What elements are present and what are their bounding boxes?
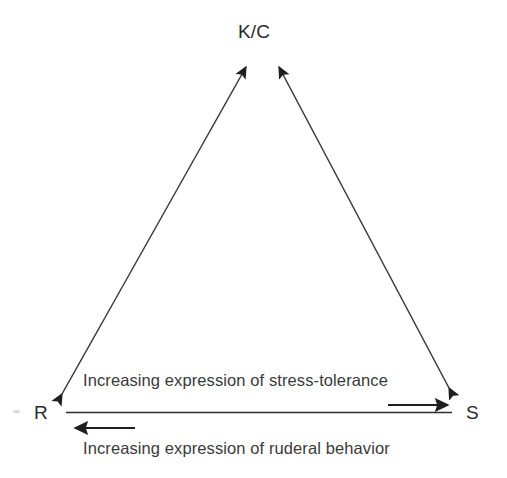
vertex-label-r: R: [34, 403, 48, 422]
edge-r-to-kc: [62, 67, 246, 394]
vertex-label-kc: K/C: [238, 22, 270, 41]
vertex-label-s: S: [466, 403, 479, 422]
csr-triangle-diagram: K/C R S Increasing expression of stress-…: [0, 0, 507, 478]
caption-stress-tolerance: Increasing expression of stress-toleranc…: [83, 372, 388, 389]
scan-artifact-speck: [13, 410, 20, 413]
triangle-graphics: [0, 0, 507, 478]
caption-ruderal-behavior: Increasing expression of ruderal behavio…: [83, 440, 390, 457]
edge-s-to-kc: [279, 67, 449, 388]
